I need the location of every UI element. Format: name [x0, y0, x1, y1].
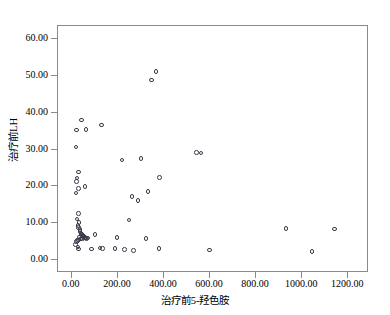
data-point: [115, 235, 120, 240]
data-point: [99, 123, 104, 128]
data-point: [310, 249, 315, 254]
data-point: [76, 247, 81, 252]
x-tick-label: 1000.00: [285, 279, 318, 289]
plot-data-area: [58, 26, 367, 271]
y-tick-label: 10.00: [26, 217, 49, 227]
data-point: [157, 175, 162, 180]
data-point: [207, 248, 212, 253]
data-point: [89, 247, 94, 252]
data-point: [74, 128, 79, 133]
data-point: [332, 227, 337, 232]
data-point: [74, 179, 79, 184]
data-point: [120, 158, 125, 163]
data-point: [157, 246, 162, 251]
data-point: [199, 151, 204, 156]
data-point: [154, 69, 159, 74]
x-axis-title: 治疗前5-羟色胺: [0, 295, 390, 307]
x-tick-label: 200.00: [103, 279, 131, 289]
data-point: [127, 218, 132, 223]
data-point: [136, 198, 141, 203]
data-point: [74, 191, 79, 196]
x-tick-label: 800.00: [241, 279, 269, 289]
y-tick-label: 30.00: [26, 144, 49, 154]
data-point: [79, 118, 84, 123]
x-tick-label: 1200.00: [331, 279, 364, 289]
y-tick-label: 20.00: [26, 180, 49, 190]
data-point: [76, 170, 81, 175]
data-point: [144, 236, 149, 241]
data-point: [130, 194, 135, 199]
data-point: [146, 189, 151, 194]
data-point: [76, 211, 81, 216]
y-tick-label: 60.00: [26, 33, 49, 43]
data-point: [131, 248, 136, 253]
y-axis-title: 治疗前LH: [8, 85, 20, 195]
data-point: [74, 145, 79, 150]
data-point: [86, 236, 91, 241]
data-point: [84, 127, 89, 132]
plot-frame: [57, 25, 368, 272]
data-point: [139, 156, 144, 161]
y-tick-label: 0.00: [31, 254, 49, 264]
data-point: [113, 246, 118, 251]
data-point: [93, 232, 98, 237]
x-tick-label: 0.00: [62, 279, 80, 289]
x-tick-label: 400.00: [149, 279, 177, 289]
data-point: [77, 235, 82, 240]
data-point: [122, 247, 127, 252]
data-point: [83, 184, 88, 189]
y-tick-label: 50.00: [26, 70, 49, 80]
x-tick-label: 600.00: [195, 279, 223, 289]
data-point: [149, 78, 154, 83]
scatter-plot-figure: 0.0010.0020.0030.0040.0050.0060.00 0.002…: [0, 0, 390, 315]
data-point: [194, 150, 199, 155]
data-point: [100, 246, 105, 251]
y-tick-label: 40.00: [26, 107, 49, 117]
data-point: [284, 226, 289, 231]
